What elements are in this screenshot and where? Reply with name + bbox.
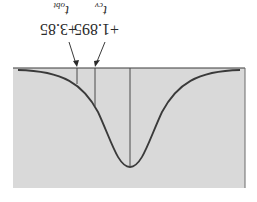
- shaded-region: [13, 68, 245, 188]
- t-distribution-diagram: +1.895 tcv +3.85 tobt: [0, 0, 257, 202]
- t-cv-label: +1.895 tcv: [74, 1, 119, 38]
- t-obt-arrow: [69, 42, 79, 67]
- region-fill: [13, 68, 245, 188]
- diagram-canvas: +1.895 tcv +3.85 tobt: [0, 0, 257, 202]
- t-obt-label: +3.85 tobt: [40, 1, 77, 38]
- t-cv-arrow: [94, 42, 105, 67]
- t-cv-symbol: tcv: [95, 1, 107, 18]
- t-obt-symbol: tobt: [53, 1, 69, 18]
- t-obt-value: +3.85: [40, 21, 77, 38]
- t-cv-value: +1.895: [74, 21, 119, 38]
